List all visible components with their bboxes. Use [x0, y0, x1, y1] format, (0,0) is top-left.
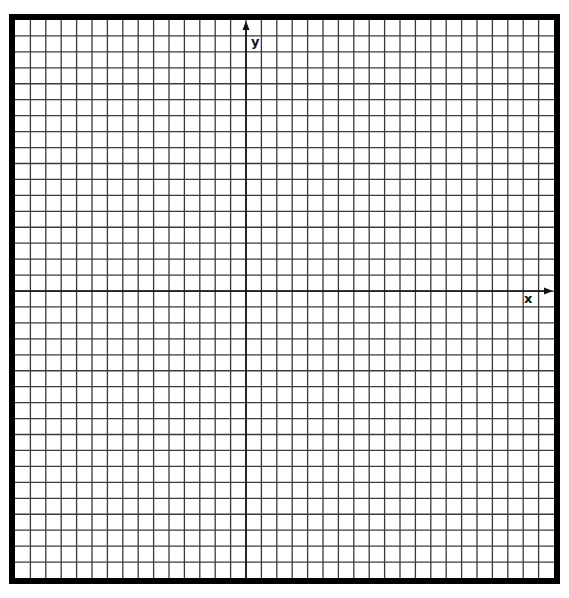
grid-lines: [15, 20, 554, 578]
frame-border: [12, 17, 557, 581]
x-axis-arrow-icon: [544, 288, 553, 295]
axes: x y: [15, 21, 553, 578]
x-axis-label: x: [524, 291, 533, 306]
coordinate-grid-diagram: x y: [0, 0, 569, 598]
y-axis-label: y: [251, 34, 260, 49]
graph-paper: x y: [0, 0, 569, 598]
y-axis-arrow-icon: [243, 21, 250, 30]
